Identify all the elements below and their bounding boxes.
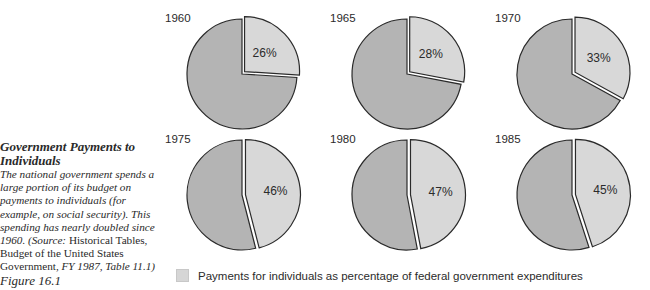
legend-swatch — [176, 269, 189, 282]
pie-chart-1985: 1985 45% — [495, 133, 635, 258]
pie-chart-1975: 1975 46% — [165, 133, 305, 258]
pie-percent-label: 33% — [587, 51, 611, 65]
pie-svg: 46% — [165, 133, 305, 258]
pie-percent-label: 47% — [429, 185, 453, 199]
chart-legend: Payments for individuals as percentage o… — [176, 269, 583, 282]
pie-svg: 45% — [495, 133, 635, 258]
pie-slice-other — [352, 140, 417, 250]
pie-chart-1960: 1960 26% — [165, 12, 305, 137]
pie-svg: 47% — [330, 133, 470, 258]
pie-svg: 33% — [495, 12, 635, 137]
pie-percent-label: 26% — [253, 46, 277, 60]
figure-label: Figure 16.1 — [0, 274, 160, 288]
caption-source-tail: FY 1987, Table 11.1) — [62, 260, 156, 272]
caption-title: Government Payments to Individuals — [0, 140, 160, 168]
caption-body: The national government spends a large p… — [0, 168, 160, 274]
legend-label: Payments for individuals as percentage o… — [198, 270, 583, 282]
pie-percent-label: 46% — [263, 184, 287, 198]
pie-chart-1980: 1980 47% — [330, 133, 470, 258]
pie-svg: 26% — [165, 12, 305, 137]
pie-chart-1965: 1965 28% — [330, 12, 470, 137]
pie-chart-1970: 1970 33% — [495, 12, 635, 137]
pie-svg: 28% — [330, 12, 470, 137]
figure-caption: Government Payments to Individuals The n… — [0, 140, 160, 288]
pie-percent-label: 28% — [419, 47, 443, 61]
pie-percent-label: 45% — [593, 183, 617, 197]
